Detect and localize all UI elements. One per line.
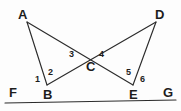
vertex-label-g: G [163,86,173,99]
vertex-label-d: D [155,8,164,21]
vertex-label-e: E [129,88,138,101]
angle-label-6: 6 [140,75,145,84]
angle-label-2: 2 [48,68,53,77]
geometry-figure: A D B E C F G 1 2 3 4 5 6 [0,0,181,111]
segment-a-e-line [27,22,133,85]
vertex-label-b: B [43,88,52,101]
angle-label-4: 4 [99,50,104,59]
vertex-label-a: A [18,8,27,21]
transversal-f-g-line [5,100,176,103]
angle-label-5: 5 [126,68,131,77]
angle-label-3: 3 [69,50,74,59]
angle-label-1: 1 [35,75,40,84]
vertex-label-c: C [86,60,95,73]
vertex-label-f: F [9,86,17,99]
